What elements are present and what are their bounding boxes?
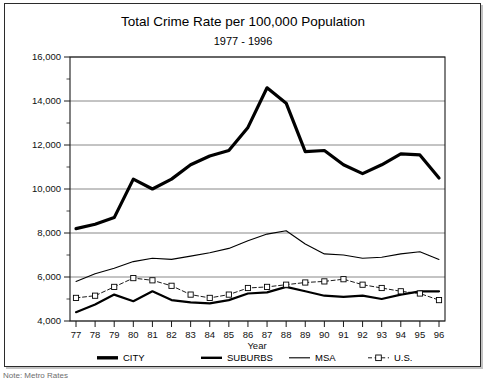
series-marker-u-s [245, 285, 250, 290]
x-tick-label: 85 [224, 329, 235, 340]
x-tick-label: 83 [185, 329, 196, 340]
series-marker-u-s [207, 295, 212, 300]
x-tick-label: 84 [204, 329, 215, 340]
figure-caption: Note: Metro Rates [3, 371, 303, 379]
x-tick-label: 88 [281, 329, 292, 340]
legend-label: SUBURBS [227, 352, 273, 363]
series-marker-u-s [264, 284, 269, 289]
chart-frame: Total Crime Rate per 100,000 Population … [4, 3, 481, 367]
x-tick-label: 86 [243, 329, 254, 340]
x-tick-label: 79 [109, 329, 120, 340]
series-marker-u-s [379, 285, 384, 290]
x-tick-label: 93 [376, 329, 387, 340]
y-tick-label: 6,000 [37, 271, 61, 282]
series-marker-u-s [226, 292, 231, 297]
x-axis-ticks [76, 321, 439, 327]
x-tick-label: 95 [415, 329, 426, 340]
x-tick-label: 87 [262, 329, 273, 340]
series-marker-u-s [131, 276, 136, 281]
x-tick-label: 91 [338, 329, 349, 340]
x-tick-label: 89 [300, 329, 311, 340]
legend-item-suburbs[interactable]: SUBURBS [201, 352, 273, 363]
series-marker-u-s [284, 282, 289, 287]
x-axis-tick-labels: 7778798081828384858687888990919293949596 [71, 329, 445, 340]
x-tick-label: 92 [357, 329, 368, 340]
series-marker-u-s [169, 283, 174, 288]
y-axis-tick-labels: 4,0006,0008,00010,00012,00014,00016,000 [32, 51, 61, 326]
series-marker-u-s [73, 295, 78, 300]
legend-label: MSA [315, 352, 336, 363]
chart-title: Total Crime Rate per 100,000 Population [121, 14, 365, 29]
legend-item-msa[interactable]: MSA [289, 352, 336, 363]
x-tick-label: 94 [396, 329, 407, 340]
y-tick-label: 12,000 [32, 139, 61, 150]
x-axis-title: Year [247, 340, 266, 351]
legend-label: U.S. [394, 352, 412, 363]
y-tick-label: 14,000 [32, 95, 61, 106]
series-line-msa [76, 231, 439, 282]
chart-legend: CITYSUBURBSMSAU.S. [97, 352, 412, 363]
series-marker-u-s [188, 292, 193, 297]
series-marker-u-s [322, 279, 327, 284]
series-marker-u-s [93, 293, 98, 298]
x-tick-label: 81 [147, 329, 158, 340]
series-marker-u-s [303, 280, 308, 285]
legend-label: CITY [123, 352, 145, 363]
series-marker-u-s [150, 278, 155, 283]
x-tick-label: 77 [71, 329, 82, 340]
x-tick-label: 80 [128, 329, 139, 340]
series-marker-u-s [436, 298, 441, 303]
series-line-city [76, 88, 439, 229]
y-tick-label: 8,000 [37, 227, 61, 238]
x-tick-label: 90 [319, 329, 330, 340]
series-marker-u-s [417, 291, 422, 296]
series-marker-u-s [341, 277, 346, 282]
x-tick-label: 78 [90, 329, 101, 340]
chart-subtitle: 1977 - 1996 [214, 35, 273, 47]
legend-item-u-s[interactable]: U.S. [368, 352, 412, 363]
x-tick-label: 82 [166, 329, 177, 340]
series-marker-u-s [398, 289, 403, 294]
legend-marker [376, 355, 382, 361]
y-tick-label: 16,000 [32, 51, 61, 62]
x-tick-label: 96 [434, 329, 445, 340]
y-tick-label: 4,000 [37, 315, 61, 326]
series-marker-u-s [360, 282, 365, 287]
legend-item-city[interactable]: CITY [97, 352, 145, 363]
series-marker-u-s [112, 284, 117, 289]
crime-rate-line-chart: Total Crime Rate per 100,000 Population … [5, 4, 482, 368]
y-tick-label: 10,000 [32, 183, 61, 194]
data-series-group [73, 88, 441, 312]
y-axis-ticks [64, 57, 70, 321]
